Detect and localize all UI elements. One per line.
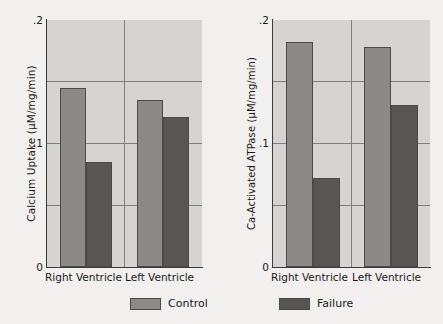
bar-right-ventricle-control-left [60, 88, 86, 267]
legend-failure: Failure [279, 298, 353, 310]
legend-swatch-control-icon [130, 298, 161, 310]
x-axis-label-right-ventricle-left: Right Ventricle [45, 270, 109, 284]
group-divider-right [351, 20, 352, 267]
x-axis-label-left-ventricle-right: Left Ventricle [352, 270, 416, 284]
x-axis-line-left [46, 267, 203, 268]
legend-label-control: Control [168, 298, 208, 310]
y-tick-label-0.1-right: .1 [229, 138, 269, 148]
chart-panel-ca-activated-atpase: Ca-Activated ATPase (μM/mg/min) .2 .1 0 … [221, 0, 442, 324]
bar-left-ventricle-control-left [137, 100, 163, 267]
x-axis-label-right-ventricle-right: Right Ventricle [271, 270, 335, 284]
y-tick-label-0.2-right: .2 [229, 15, 269, 25]
plot-area-right [273, 20, 430, 267]
bar-right-ventricle-control-right [286, 42, 313, 267]
y-tick-label-0.2-left: .2 [3, 15, 43, 25]
bar-left-ventricle-failure-right [391, 105, 418, 267]
legend-control: Control [130, 298, 208, 310]
bar-right-ventricle-failure-right [313, 178, 340, 267]
plot-area-left [47, 20, 202, 267]
y-tick-label-0-right: 0 [229, 262, 269, 272]
bar-left-ventricle-control-right [364, 47, 391, 267]
legend-swatch-failure-icon [279, 298, 310, 310]
chart-panel-calcium-uptake: Calcium Uptake (μM/mg/min) .2 .1 0 Right… [0, 0, 221, 324]
x-axis-label-left-ventricle-left: Left Ventricle [125, 270, 189, 284]
y-tick-label-0.1-left: .1 [3, 138, 43, 148]
two-panel-bar-chart-figure: Calcium Uptake (μM/mg/min) .2 .1 0 Right… [0, 0, 443, 324]
group-divider-left [124, 20, 125, 267]
bar-left-ventricle-failure-left [163, 117, 189, 267]
legend-label-failure: Failure [317, 298, 353, 310]
x-axis-line-right [272, 267, 431, 268]
bar-right-ventricle-failure-left [86, 162, 112, 267]
y-tick-label-0-left: 0 [3, 262, 43, 272]
